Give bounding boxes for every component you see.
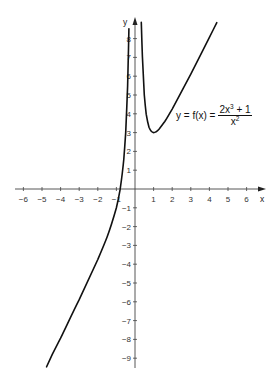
equation-denominator: x2 bbox=[231, 116, 240, 127]
numerator-rest: + 1 bbox=[234, 104, 251, 115]
y-axis-arrow-icon bbox=[133, 17, 138, 25]
svg-text:4: 4 bbox=[207, 195, 212, 204]
numerator-base: 2x bbox=[219, 104, 230, 115]
equation-fraction: 2x3 + 1 x2 bbox=[218, 104, 251, 127]
svg-text:−4: −4 bbox=[122, 260, 132, 269]
svg-text:−2: −2 bbox=[93, 195, 103, 204]
svg-text:5: 5 bbox=[226, 195, 231, 204]
svg-text:2: 2 bbox=[170, 195, 175, 204]
svg-text:−7: −7 bbox=[122, 317, 132, 326]
function-graph: −6 −5 −4 −3 −2 −1 1 2 3 4 5 6 x 8 7 6 5 … bbox=[0, 0, 277, 381]
y-tick-labels: 8 7 6 5 4 3 2 1 −1 −2 −3 −4 −5 −6 −7 −8 … bbox=[122, 35, 132, 364]
svg-text:−6: −6 bbox=[122, 298, 132, 307]
svg-text:−5: −5 bbox=[37, 195, 47, 204]
x-tick-labels: −6 −5 −4 −3 −2 −1 1 2 3 4 5 6 bbox=[19, 195, 250, 204]
x-axis-arrow-icon bbox=[258, 187, 266, 192]
equation-lhs: y = f(x) = bbox=[176, 110, 215, 121]
svg-text:3: 3 bbox=[127, 129, 132, 138]
svg-text:−9: −9 bbox=[122, 354, 132, 363]
svg-text:1: 1 bbox=[151, 195, 156, 204]
svg-text:−3: −3 bbox=[122, 241, 132, 250]
y-axis-label: y bbox=[123, 17, 128, 27]
svg-text:1: 1 bbox=[127, 166, 132, 175]
svg-text:−2: −2 bbox=[122, 223, 132, 232]
svg-text:−1: −1 bbox=[122, 204, 132, 213]
function-equation-label: y = f(x) = 2x3 + 1 x2 bbox=[176, 104, 252, 127]
x-axis-label: x bbox=[260, 194, 265, 204]
svg-text:−3: −3 bbox=[75, 195, 85, 204]
svg-text:−8: −8 bbox=[122, 335, 132, 344]
denominator-exponent: 2 bbox=[236, 115, 240, 122]
svg-text:6: 6 bbox=[244, 195, 249, 204]
svg-text:−4: −4 bbox=[56, 195, 66, 204]
svg-text:2: 2 bbox=[127, 147, 132, 156]
svg-text:−1: −1 bbox=[112, 195, 122, 204]
svg-text:−6: −6 bbox=[19, 195, 29, 204]
svg-text:3: 3 bbox=[189, 195, 194, 204]
svg-text:−5: −5 bbox=[122, 279, 132, 288]
